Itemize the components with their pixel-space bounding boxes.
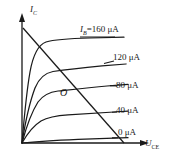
curve-label-120-value: 120	[113, 52, 127, 62]
curve-ib-0	[22, 138, 128, 143]
curve-label-160-value: 160	[92, 24, 106, 34]
curve-label-40-value: 40	[116, 105, 125, 115]
x-axis-label-subscript: CE	[152, 144, 160, 150]
x-axis-label: UCE	[145, 139, 159, 150]
y-axis-label: IC	[30, 5, 37, 16]
curve-label-ib-120: 120 μA	[113, 53, 140, 62]
curve-label-ib-40: 40 μA	[116, 106, 139, 115]
curve-label-40-unit: μA	[127, 105, 138, 115]
curve-label-160-unit: μA	[108, 24, 119, 34]
curve-label-ib-80: 80 μA	[116, 81, 139, 90]
curve-label-120-unit: μA	[129, 52, 140, 62]
y-axis-arrowhead	[19, 13, 25, 22]
curve-label-ib-160: IB=160 μA	[80, 25, 119, 36]
curve-label-0-unit: μA	[125, 127, 136, 137]
curve-ib-160	[22, 37, 124, 143]
curve-label-0-value: 0	[118, 127, 123, 137]
y-axis-label-subscript: C	[33, 10, 37, 16]
curve-label-80-value: 80	[116, 80, 125, 90]
operating-point-label: O	[60, 88, 67, 98]
curve-label-ib-0: 0 μA	[118, 128, 136, 137]
curve-ib-80	[22, 84, 128, 143]
transistor-output-characteristics-figure: IC UCE IB=160 μA 120 μA 80 μA 40 μA 0 μA…	[0, 0, 172, 164]
curve-label-80-unit: μA	[127, 80, 138, 90]
